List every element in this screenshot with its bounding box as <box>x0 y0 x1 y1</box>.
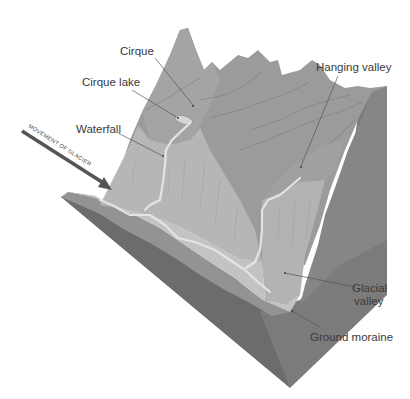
hanging-valley-pointer-dot <box>300 166 302 168</box>
label-hanging-valley: Hanging valley <box>316 61 392 73</box>
cirque-pointer-dot <box>192 105 194 107</box>
glacial-landscape-diagram: MOVEMENT OF GLACIER Cirque Cirque lake W… <box>0 0 410 399</box>
label-ground-moraine: Ground moraine <box>310 331 393 343</box>
label-cirque: Cirque <box>120 45 154 57</box>
glacial-valley-pointer-dot <box>284 272 286 274</box>
ground-moraine-pointer-dot <box>291 310 293 312</box>
label-cirque-lake: Cirque lake <box>82 76 140 88</box>
label-waterfall: Waterfall <box>76 123 121 135</box>
label-glacial-valley-1: Glacial <box>352 282 387 294</box>
label-glacial-valley-2: valley <box>354 295 384 307</box>
waterfall-pointer-dot <box>162 155 164 157</box>
cirque-lake-pointer-dot <box>177 117 179 119</box>
